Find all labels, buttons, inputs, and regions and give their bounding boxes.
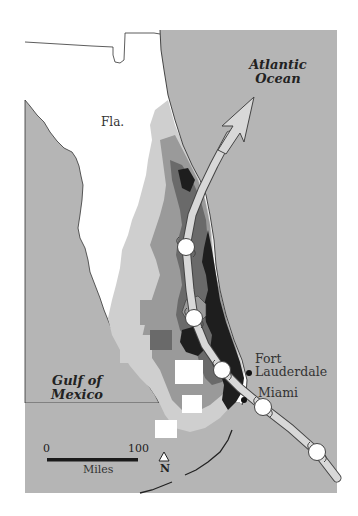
gulf-line1: Gulf of (46, 374, 108, 388)
gulf-line2: Mexico (46, 388, 108, 402)
atlantic-line1: Atlantic (238, 58, 318, 72)
atlantic-ocean-label: Atlantic Ocean (238, 58, 318, 85)
state-label-fla: Fla. (101, 116, 124, 129)
gulf-of-mexico-label: Gulf of Mexico (46, 374, 108, 401)
city-dot-fort-lauderdale (246, 370, 252, 376)
city-label-fort-lauderdale: Fort Lauderdale (255, 352, 327, 378)
north-label: N (160, 463, 170, 475)
city-dot-miami (241, 397, 247, 403)
city-label-miami: Miami (258, 386, 298, 399)
scale-bar (47, 458, 138, 462)
scale-start-label: 0 (43, 443, 50, 455)
scale-end-label: 100 (128, 443, 149, 455)
fort-lauderdale-line2: Lauderdale (255, 365, 327, 378)
scale-unit-label: Miles (83, 464, 113, 476)
atlantic-line2: Ocean (238, 72, 318, 86)
